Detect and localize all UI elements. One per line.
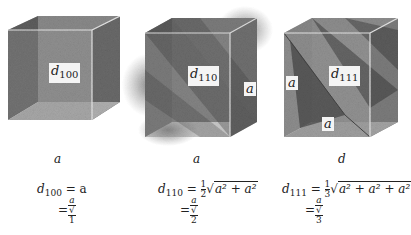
edge-label-a-111-bottom: a bbox=[322, 117, 334, 131]
edge-label-a-110: a bbox=[244, 82, 256, 96]
equation-d110-line1: d110 = 12√a² + a² bbox=[158, 180, 258, 200]
plane-label-d110: d110 bbox=[188, 66, 219, 86]
caption-d-111: d bbox=[338, 152, 346, 166]
equation-d111-line2: =a√3 bbox=[305, 196, 323, 225]
plane-label-d111: d111 bbox=[329, 66, 360, 86]
plane-label-d100: d100 bbox=[49, 63, 80, 83]
caption-a-110: a bbox=[193, 152, 200, 166]
edge-label-a-111-side: a bbox=[286, 76, 298, 90]
equation-d111-line1: d111 = 13√a² + a² + a² bbox=[282, 180, 411, 200]
caption-a-100: a bbox=[54, 152, 61, 166]
equation-d110-line2: =a√2 bbox=[180, 196, 198, 225]
equation-d100-line2: =a√1 bbox=[58, 196, 76, 225]
